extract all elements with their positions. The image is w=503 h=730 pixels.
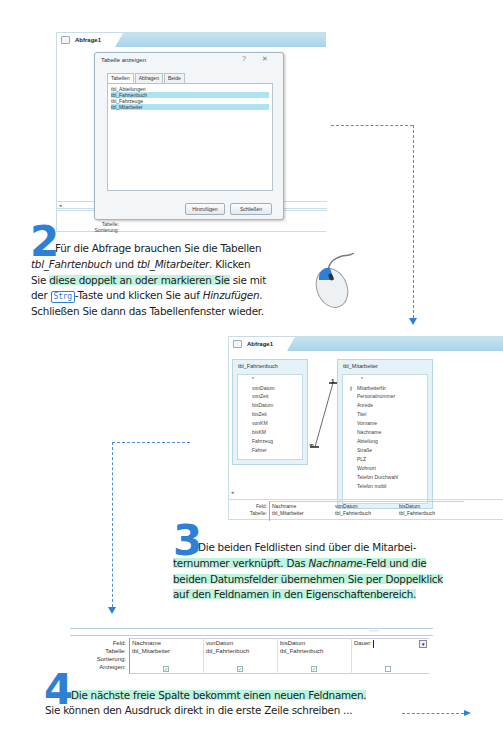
field-item[interactable]: Anrede — [357, 402, 373, 408]
grid-cell-field-dauer[interactable]: Dauer: — [354, 640, 374, 648]
arrow-right-icon — [464, 710, 471, 716]
step-2-text: Für die Abfrage brauchen Sie die Tabelle… — [55, 241, 325, 257]
scroll-left-icon[interactable]: ◂ — [231, 489, 234, 495]
grid-header-border — [70, 635, 433, 636]
step-number-2: 2 — [30, 224, 56, 260]
grid-body — [129, 638, 429, 674]
grid-label-sort: Sortierung: — [57, 227, 119, 233]
field-item[interactable]: vonKM — [252, 420, 268, 426]
show-table-dialog: Tabelle anzeigen ? ✕ Tabellen Abfragen B… — [94, 52, 284, 220]
query-icon — [61, 36, 70, 44]
fieldlist-body: * ⚷ MitarbeiterNr Personalnummer Anrede … — [342, 374, 428, 504]
add-button[interactable]: Hinzufügen — [185, 203, 225, 215]
grid-cell[interactable]: bisDatum — [399, 503, 420, 509]
query-icon — [233, 340, 242, 348]
tab-abfragen[interactable]: Abfragen — [135, 73, 163, 83]
relation-one-label: 1 — [331, 378, 334, 384]
field-item[interactable]: Fahrer — [252, 447, 267, 453]
scroll-left-icon[interactable]: ◂ — [59, 202, 62, 208]
connector-line — [112, 442, 113, 607]
grid-cell[interactable]: vonDatum — [335, 503, 358, 509]
dropdown-icon[interactable]: ▾ — [419, 640, 427, 648]
table-list[interactable]: tbl_Abteilungen tbl_Fahrtenbuch tbl_Fahr… — [107, 83, 273, 191]
fieldlist-mitarbeiter[interactable]: tbl_Mitarbeiter * ⚷ MitarbeiterNr Person… — [337, 359, 433, 509]
dialog-tabs: Tabellen Abfragen Beide — [107, 73, 186, 83]
show-checkbox[interactable]: ✓ — [237, 666, 243, 672]
field-item[interactable]: Telefon mobil — [357, 483, 386, 489]
step-2-text-body: tbl_Fahrtenbuch und tbl_Mitarbeiter. Kli… — [31, 257, 331, 319]
tab-abfrage1[interactable]: Abfrage1 — [229, 337, 288, 351]
horizontal-scrollbar[interactable]: ◂ — [229, 490, 249, 497]
fieldlist-fahrtenbuch[interactable]: tbl_Fahrtenbuch * vonDatum vonZeit bisDa… — [232, 359, 308, 465]
field-item[interactable]: bisZeit — [252, 411, 267, 417]
grid-cell[interactable]: tbl_Fahrtenbuch — [335, 510, 371, 516]
fieldlist-body: * vonDatum vonZeit bisDatum bisZeit vonK… — [237, 374, 303, 460]
connector-line — [112, 442, 190, 443]
mouse-icon — [310, 250, 360, 310]
field-item[interactable]: Telefon Durchwahl — [357, 474, 398, 480]
list-item[interactable]: tbl_Mitarbeiter — [111, 104, 269, 110]
fieldlist-title: tbl_Fahrtenbuch — [238, 363, 278, 369]
column-divider — [203, 638, 204, 674]
field-item[interactable]: * — [252, 376, 254, 382]
connector-line — [413, 125, 414, 318]
field-item[interactable]: Titel — [357, 411, 366, 417]
connector-line — [331, 125, 413, 126]
fieldlist-title: tbl_Mitarbeiter — [343, 363, 378, 369]
step-4-text-line2: Sie können den Ausdruck direkt in die er… — [45, 703, 465, 719]
field-item[interactable]: Personalnummer — [357, 393, 395, 399]
field-item[interactable]: vonZeit — [252, 393, 268, 399]
grid-cell-field[interactable]: vonDatum — [206, 640, 233, 648]
field-item[interactable]: Straße — [357, 447, 372, 453]
arrow-down-icon — [409, 318, 417, 325]
show-checkbox-unchecked[interactable] — [385, 666, 391, 672]
field-item[interactable]: MitarbeiterNr — [357, 385, 386, 391]
field-item[interactable]: Fahrzeug — [252, 438, 273, 444]
grid-cell[interactable]: tbl_Fahrtenbuch — [399, 510, 435, 516]
scroll-dots: :::::::: — [370, 628, 379, 633]
primary-key-icon: ⚷ — [349, 385, 353, 391]
grid-cell-table[interactable]: tbl_Fahrtenbuch — [280, 648, 323, 656]
query-design-grid: :::::::: Feld: Tabelle: Sortierung: Anze… — [70, 628, 433, 680]
close-button[interactable]: Schließen — [230, 203, 272, 215]
field-item[interactable]: bisKM — [252, 429, 266, 435]
field-item[interactable]: * — [361, 376, 363, 382]
tab-abfrage1[interactable]: Abfrage1 — [57, 33, 116, 47]
tab-label: Abfrage1 — [75, 37, 101, 43]
show-checkbox[interactable]: ✓ — [311, 666, 317, 672]
close-icon[interactable]: ✕ — [262, 55, 268, 63]
step-3-text: Die beiden Feldlisten sind über die Mita… — [198, 540, 503, 556]
column-divider — [277, 638, 278, 674]
relation-many-label: ∞ — [309, 441, 314, 448]
field-item[interactable]: Vorname — [357, 420, 377, 426]
label-anzeigen: Anzeigen: — [70, 664, 126, 672]
tab-label: Abfrage1 — [247, 341, 273, 347]
step-number-3: 3 — [173, 523, 199, 559]
tab-tabellen[interactable]: Tabellen — [107, 73, 134, 83]
step-3-text-body: ternummer verknüpft. Das Nachname-Feld u… — [173, 556, 503, 603]
label-tabelle: Tabelle: — [70, 648, 126, 656]
label-feld: Feld: — [70, 640, 126, 648]
grid-cell[interactable]: tbl_Mitarbeiter — [272, 510, 304, 516]
field-item[interactable]: Wohnort — [357, 465, 376, 471]
label-sortierung: Sortierung: — [70, 656, 126, 664]
grid-cell[interactable]: Nachname — [272, 503, 296, 509]
field-item[interactable]: PLZ — [357, 456, 366, 462]
column-divider — [351, 638, 352, 674]
grid-cell-field[interactable]: Nachname — [132, 640, 161, 648]
help-icon[interactable]: ? — [242, 55, 246, 62]
connector-line — [402, 713, 464, 714]
query-window-2: Abfrage1 tbl_Fahrtenbuch * vonDatum vonZ… — [228, 336, 503, 520]
show-checkbox[interactable]: ✓ — [163, 666, 169, 672]
strg-key: Strg — [51, 291, 75, 303]
grid-cell-table[interactable]: tbl_Mitarbeiter — [132, 648, 170, 656]
grid-cell-table[interactable]: tbl_Fahrtenbuch — [206, 648, 249, 656]
grid-cell-field[interactable]: bisDatum — [280, 640, 305, 648]
arrow-down-icon — [108, 607, 116, 614]
field-item[interactable]: Abteilung — [357, 438, 378, 444]
tab-beide[interactable]: Beide — [164, 73, 185, 83]
field-item[interactable]: Nachname — [357, 429, 381, 435]
field-item[interactable]: bisDatum — [252, 402, 273, 408]
field-item[interactable]: vonDatum — [252, 385, 275, 391]
design-grid-label-field: Feld: — [229, 503, 267, 509]
